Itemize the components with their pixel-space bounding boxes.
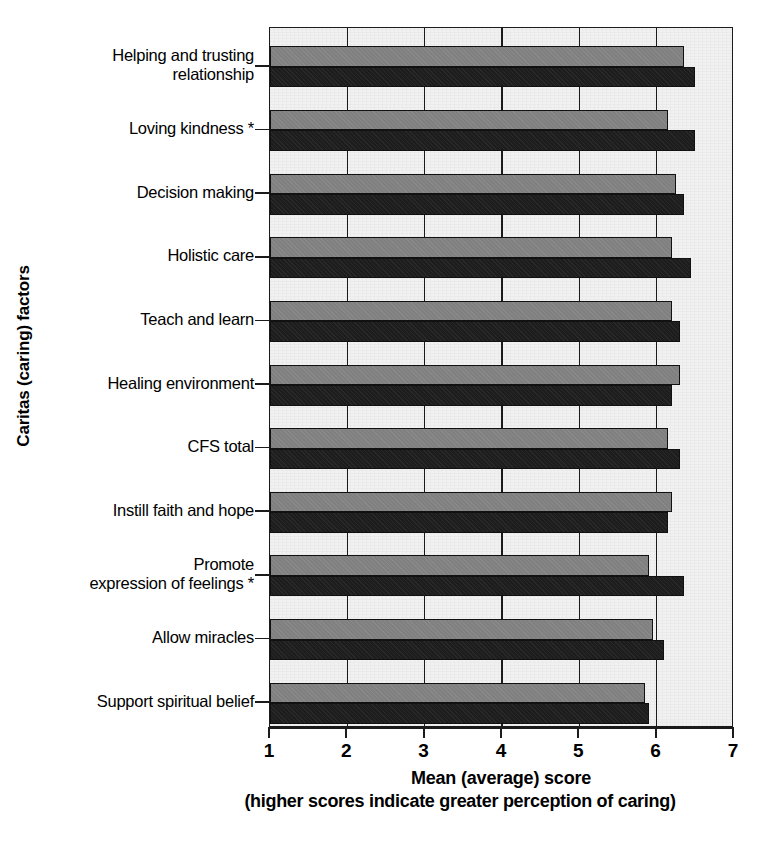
y-axis-title: Caritas (caring) factors	[14, 146, 34, 566]
x-axis-tick	[500, 727, 502, 738]
category-label: Holistic care	[40, 246, 254, 265]
category-label-line: CFS total	[40, 437, 254, 456]
category-label: Decision making	[40, 183, 254, 202]
x-axis-tick-label: 6	[636, 740, 676, 762]
category-label-line: Instill faith and hope	[40, 501, 254, 520]
x-axis-subtitle: (higher scores indicate greater percepti…	[160, 791, 760, 812]
y-axis-tick	[255, 383, 269, 385]
category-label-line: Loving kindness *	[40, 119, 254, 138]
y-axis-tick	[255, 574, 269, 576]
category-label-line: expression of feelings *	[40, 574, 254, 593]
category-label-line: relationship	[40, 65, 254, 84]
category-label-list: Helping and trustingrelationshipLoving k…	[40, 27, 262, 727]
y-axis-tick	[255, 447, 269, 449]
bar	[270, 194, 684, 215]
y-axis-tick	[255, 320, 269, 322]
category-label-line: Allow miracles	[40, 628, 254, 647]
category-label-line: Healing environment	[40, 374, 254, 393]
bar	[270, 683, 645, 704]
bar-chart: Caritas (caring) factors Helping and tru…	[0, 0, 760, 845]
x-axis-tick-label: 4	[481, 740, 521, 762]
plot-area	[269, 27, 733, 727]
category-label-line: Holistic care	[40, 246, 254, 265]
y-axis-tick	[255, 701, 269, 703]
bar	[270, 703, 649, 724]
x-axis-tick-label: 5	[558, 740, 598, 762]
bar	[270, 512, 668, 533]
x-axis-tick-label: 1	[249, 740, 289, 762]
bar	[270, 640, 664, 661]
y-axis-tick	[255, 192, 269, 194]
bar	[270, 492, 672, 513]
category-label: CFS total	[40, 437, 254, 456]
x-axis-tick-label: 2	[326, 740, 366, 762]
bar	[270, 46, 684, 67]
x-axis-tick	[345, 727, 347, 738]
x-axis-tick	[655, 727, 657, 738]
x-axis-tick-label: 3	[404, 740, 444, 762]
bar	[270, 365, 680, 386]
bar	[270, 321, 680, 342]
category-label-line: Promote	[40, 555, 254, 574]
category-label: Support spiritual belief	[40, 692, 254, 711]
bar	[270, 449, 680, 470]
category-label-line: Helping and trusting	[40, 46, 254, 65]
y-axis-tick	[255, 129, 269, 131]
bar	[270, 174, 676, 195]
bar	[270, 619, 653, 640]
y-axis-tick	[255, 256, 269, 258]
category-label: Instill faith and hope	[40, 501, 254, 520]
category-label-line: Decision making	[40, 183, 254, 202]
bar	[270, 67, 695, 88]
category-label-line: Support spiritual belief	[40, 692, 254, 711]
category-label: Allow miracles	[40, 628, 254, 647]
x-axis-tick-label: 7	[713, 740, 753, 762]
caption-fragment	[2, 826, 202, 840]
category-label: Loving kindness *	[40, 119, 254, 138]
x-axis-tick	[577, 727, 579, 738]
y-axis-tick	[255, 510, 269, 512]
bar	[270, 130, 695, 151]
y-axis-tick	[255, 65, 269, 67]
bar	[270, 385, 672, 406]
bar	[270, 428, 668, 449]
x-axis-tick	[268, 727, 270, 738]
category-label: Helping and trustingrelationship	[40, 46, 254, 84]
bar	[270, 576, 684, 597]
category-label: Healing environment	[40, 374, 254, 393]
bar	[270, 237, 672, 258]
x-axis-tick	[732, 727, 734, 738]
category-label: Promoteexpression of feelings *	[40, 555, 254, 593]
x-axis-tick	[423, 727, 425, 738]
category-label: Teach and learn	[40, 310, 254, 329]
bar	[270, 301, 672, 322]
bar	[270, 258, 691, 279]
bar	[270, 555, 649, 576]
bar	[270, 110, 668, 131]
y-axis-tick	[255, 638, 269, 640]
x-axis-title: Mean (average) score	[269, 768, 733, 789]
category-label-line: Teach and learn	[40, 310, 254, 329]
